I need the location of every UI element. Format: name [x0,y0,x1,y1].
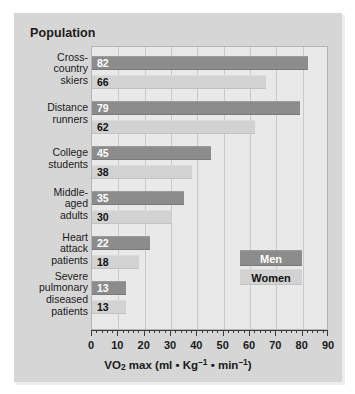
legend-item-women: Women [240,269,302,285]
axis-tick-major [144,330,145,336]
bar-women: 30 [92,210,171,224]
axis-tick-minor [112,330,113,333]
bar-value-label: 66 [97,77,109,88]
axis-tick-minor [281,330,282,333]
axis-tick-minor [123,330,124,333]
axis-tick-minor [217,330,218,333]
x-axis-title-main: VO [104,359,121,371]
bar-women: 38 [92,165,192,179]
axis-tick-minor [212,330,213,333]
axis-tick-minor [260,330,261,333]
axis-tick-major [91,330,92,336]
axis-tick-label: 90 [322,339,334,351]
axis-tick-minor [128,330,129,333]
axis-tick-label: 0 [88,339,94,351]
plot-area: 826679624538353022181313 [91,46,328,330]
axis-tick-major [170,330,171,336]
x-axis-line [91,330,328,331]
bar-value-label: 18 [97,257,109,268]
bar-value-label: 45 [97,148,109,159]
axis-tick-minor [154,330,155,333]
bar-value-label: 35 [97,193,109,204]
axis-tick-minor [181,330,182,333]
bar-men: 22 [92,236,150,250]
x-axis-title-rest: max (ml • Kg [126,359,198,371]
axis-tick-label: 10 [111,339,123,351]
category-label-line: diseased [16,294,88,306]
axis-tick-minor [96,330,97,333]
x-axis-title-sup1: –1 [198,357,207,367]
axis-tick-minor [296,330,297,333]
legend: Men Women [240,250,302,285]
axis-tick-label: 60 [243,339,255,351]
axis-tick-minor [159,330,160,333]
axis-tick-minor [149,330,150,333]
axis-tick-minor [312,330,313,333]
bar-men: 79 [92,101,300,115]
category-label-line: adults [16,210,88,222]
axis-tick-minor [233,330,234,333]
axis-tick-minor [323,330,324,333]
axis-tick-minor [207,330,208,333]
bar-men: 82 [92,56,308,70]
x-axis-title-sup2: –1 [238,357,247,367]
axis-tick-major [117,330,118,336]
x-axis-title: VO2 max (ml • Kg–1 • min–1) [14,357,342,372]
axis-tick-label: 20 [138,339,150,351]
axis-tick-minor [165,330,166,333]
bar-women: 18 [92,255,139,269]
axis-tick-minor [270,330,271,333]
axis-tick-minor [191,330,192,333]
axis-tick-label: 70 [269,339,281,351]
bar-men: 13 [92,281,126,295]
category-label: Collegestudents [16,147,88,170]
panel-title: Population [30,26,96,40]
axis-tick-minor [228,330,229,333]
axis-tick-minor [102,330,103,333]
axis-tick-minor [286,330,287,333]
axis-tick-minor [175,330,176,333]
bar-value-label: 22 [97,238,109,249]
bar-women: 62 [92,120,255,134]
bar-value-label: 30 [97,212,109,223]
axis-tick-minor [307,330,308,333]
axis-tick-minor [265,330,266,333]
bar-value-label: 79 [97,103,109,114]
category-label-line: skiers [16,75,88,87]
x-axis-title-mid: • min [208,359,239,371]
bar-men: 35 [92,191,184,205]
bar-group: 4538 [92,141,327,183]
axis-tick-minor [138,330,139,333]
axis-tick-major [302,330,303,336]
bar-value-label: 13 [97,283,109,294]
bar-value-label: 38 [97,167,109,178]
axis-tick-minor [133,330,134,333]
bar-value-label: 62 [97,122,109,133]
category-label: Severepulmonarydiseasedpatients [16,271,88,317]
bar-women: 66 [92,75,266,89]
axis-tick-major [249,330,250,336]
bar-men: 45 [92,146,211,160]
axis-tick-major [327,330,328,336]
category-label: Heartattackpatients [16,232,88,267]
bar-group: 8266 [92,51,327,93]
axis-tick-minor [317,330,318,333]
chart-panel: Population 826679624538353022181313 Cros… [14,13,342,382]
axis-tick-major [275,330,276,336]
bar-value-label: 13 [97,302,109,313]
bar-women: 13 [92,300,126,314]
bar-group: 3530 [92,186,327,228]
legend-item-men: Men [240,250,302,266]
category-label: Middle-agedadults [16,187,88,222]
category-label-line: patients [16,306,88,318]
category-label: Distancerunners [16,102,88,125]
axis-tick-minor [107,330,108,333]
axis-tick-label: 30 [164,339,176,351]
axis-tick-minor [291,330,292,333]
category-label-line: runners [16,114,88,126]
axis-tick-label: 50 [217,339,229,351]
axis-tick-minor [202,330,203,333]
axis-tick-label: 80 [296,339,308,351]
category-label-line: students [16,159,88,171]
category-label: Cross-countryskiers [16,52,88,87]
